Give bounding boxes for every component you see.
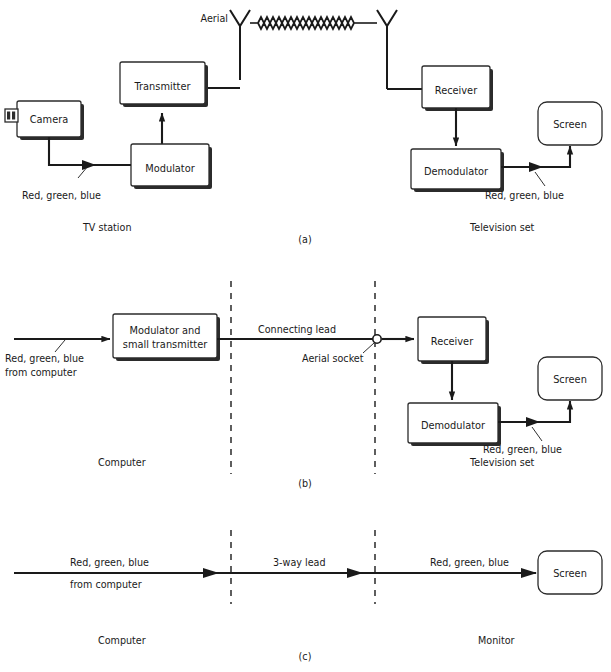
caption-c: (c) — [299, 651, 312, 662]
leader-rgb-right — [535, 172, 545, 186]
input-label-line1-b: Red, green, blue — [5, 353, 84, 364]
aerial-label: Aerial — [201, 13, 228, 24]
screen-label-c: Screen — [553, 568, 587, 579]
screen-block: Screen — [538, 102, 602, 145]
signal-label-right-b: Red, green, blue — [483, 444, 562, 455]
input-label-line2-c: from computer — [70, 579, 142, 590]
zone-label-computer-b: Computer — [98, 457, 146, 468]
signal-label-left: Red, green, blue — [22, 190, 101, 201]
figure-root: Aerial Transmitter — [0, 0, 611, 672]
arrow-demodulator-to-screen — [529, 162, 543, 172]
input-label-line1-c: Red, green, blue — [70, 557, 149, 568]
demodulator-label: Demodulator — [424, 166, 489, 177]
zone-label-television-set-b: Television set — [469, 457, 535, 468]
zone-label-tv-station: TV station — [82, 222, 132, 233]
input-label-line2-b: from computer — [5, 367, 77, 378]
arrow-c-3 — [521, 568, 537, 578]
aerial-receive-icon — [377, 10, 397, 89]
signal-label-right-c: Red, green, blue — [430, 557, 509, 568]
wire-demodulator-to-screen — [501, 146, 570, 167]
panel-b: Red, green, blue from computer Modulator… — [5, 281, 602, 489]
screen-label-b: Screen — [553, 374, 587, 385]
screen-block-b: Screen — [538, 357, 602, 400]
modulator-small-transmitter-label-line1: Modulator and — [129, 325, 200, 336]
signal-label-right: Red, green, blue — [485, 190, 564, 201]
leader-rgb-input-b — [55, 340, 65, 352]
caption-b: (b) — [298, 478, 312, 489]
camera-block: Camera — [5, 101, 84, 140]
leader-aerial-socket — [363, 343, 374, 353]
radio-wave-icon — [250, 17, 377, 29]
screen-label: Screen — [553, 119, 587, 130]
aerial-socket-icon — [373, 335, 381, 343]
transmitter-block: Transmitter — [120, 62, 208, 107]
modulator-label: Modulator — [145, 163, 195, 174]
camera-label: Camera — [30, 114, 68, 125]
connecting-lead-label: Connecting lead — [258, 324, 336, 335]
panel-a: Aerial Transmitter — [5, 10, 602, 245]
demodulator-block-b: Demodulator — [408, 403, 501, 446]
arrow-c-1 — [203, 568, 219, 578]
caption-a: (a) — [298, 234, 311, 245]
block-diagram: Aerial Transmitter — [0, 0, 611, 672]
modulator-small-transmitter-block: Modulator and small transmitter — [113, 314, 220, 361]
receiver-block-b: Receiver — [418, 317, 489, 364]
panel-c: Red, green, blue from computer 3-way lea… — [14, 530, 602, 662]
zone-label-computer-c: Computer — [98, 635, 146, 646]
zone-label-television-set: Television set — [469, 222, 535, 233]
receiver-label-b: Receiver — [431, 336, 474, 347]
screen-block-c: Screen — [538, 551, 602, 594]
leader-rgb-right-b — [532, 427, 542, 441]
demodulator-block: Demodulator — [411, 149, 504, 192]
arrow-demodulator-to-screen-b — [526, 417, 540, 427]
modulator-small-transmitter-label-line2: small transmitter — [123, 339, 208, 350]
demodulator-label-b: Demodulator — [421, 420, 486, 431]
receiver-label: Receiver — [435, 85, 478, 96]
arrow-c-2 — [347, 568, 363, 578]
transmitter-label: Transmitter — [134, 81, 192, 92]
receiver-block: Receiver — [422, 66, 493, 111]
arrow-camera-to-modulator — [82, 160, 96, 170]
aerial-transmit-icon — [230, 10, 250, 80]
wire-demodulator-to-screen-b — [498, 401, 570, 422]
wire-camera-to-modulator — [49, 137, 131, 165]
aerial-socket-label: Aerial socket — [302, 353, 364, 364]
modulator-block: Modulator — [131, 144, 212, 189]
zone-label-monitor-c: Monitor — [478, 635, 515, 646]
lead-label-c: 3-way lead — [273, 557, 326, 568]
